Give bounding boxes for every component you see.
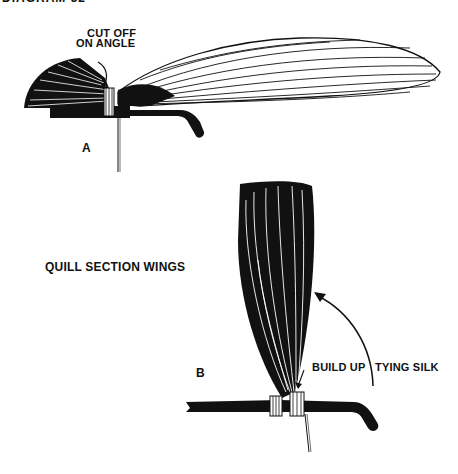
panel-b-annotation-build-up: BUILD UP [312, 362, 366, 373]
panel-a-annotation-line2: ON ANGLE [76, 38, 135, 49]
panel-a-letter: A [82, 143, 91, 154]
diagram-illustration [0, 0, 458, 474]
panel-b-drawing [186, 181, 378, 452]
panel-b-annotation-tying-silk: TYING SILK [375, 362, 439, 373]
section-title: QUILL SECTION WINGS [45, 262, 185, 273]
panel-b-letter: B [196, 368, 205, 379]
